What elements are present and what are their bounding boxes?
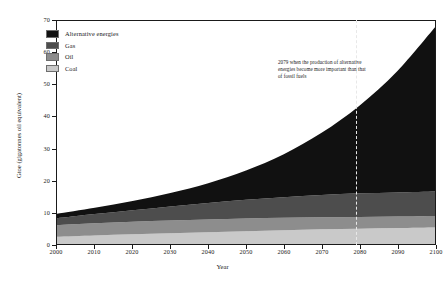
x-tick-mark <box>322 245 323 249</box>
x-tick-mark <box>94 245 95 249</box>
y-tick-label: 40 <box>20 112 50 119</box>
x-tick-label: 2060 <box>264 248 304 255</box>
x-axis-label: Year <box>0 263 445 270</box>
x-tick-mark <box>170 245 171 249</box>
y-tick-mark <box>52 213 56 214</box>
x-tick-mark <box>360 245 361 249</box>
x-tick-mark <box>56 245 57 249</box>
y-tick-label: 20 <box>20 177 50 184</box>
x-tick-label: 2020 <box>112 248 152 255</box>
legend-label-gas: Gas <box>65 42 75 49</box>
x-tick-mark <box>246 245 247 249</box>
legend-item-coal: Coal <box>46 63 119 75</box>
x-tick-mark <box>132 245 133 249</box>
x-tick-label: 2030 <box>150 248 190 255</box>
y-tick-mark <box>52 84 56 85</box>
x-tick-label: 2080 <box>340 248 380 255</box>
legend-item-alternative-energies: Alternative energies <box>46 28 119 40</box>
y-tick-label: 70 <box>20 16 50 23</box>
legend-label-coal: Coal <box>65 65 77 72</box>
x-tick-label: 2050 <box>226 248 266 255</box>
y-tick-mark <box>52 149 56 150</box>
legend-label-oil: Oil <box>65 53 73 60</box>
x-tick-mark <box>208 245 209 249</box>
y-tick-label: 30 <box>20 145 50 152</box>
x-tick-mark <box>436 245 437 249</box>
y-axis-label: Gtoe (gigatonnes oil equivalent) <box>15 66 22 206</box>
x-tick-mark <box>284 245 285 249</box>
legend-item-oil: Oil <box>46 51 119 63</box>
x-tick-label: 2010 <box>74 248 114 255</box>
y-tick-label: 10 <box>20 209 50 216</box>
x-tick-label: 2040 <box>188 248 228 255</box>
legend-swatch-coal <box>46 65 59 73</box>
x-tick-label: 2000 <box>36 248 76 255</box>
crossover-marker-line <box>356 20 357 245</box>
x-tick-label: 2100 <box>416 248 445 255</box>
legend-swatch-alternative-energies <box>46 30 59 38</box>
legend-label-alternative-energies: Alternative energies <box>65 30 119 37</box>
crossover-annotation: 2079 when the production of alternative … <box>278 59 370 80</box>
x-tick-label: 2070 <box>302 248 342 255</box>
chart-legend: Alternative energies Gas Oil Coal <box>46 28 119 74</box>
y-tick-label: 50 <box>20 80 50 87</box>
y-tick-mark <box>52 116 56 117</box>
y-tick-label: 0 <box>20 241 50 248</box>
y-tick-mark <box>52 181 56 182</box>
legend-swatch-gas <box>46 42 59 50</box>
x-tick-mark <box>398 245 399 249</box>
x-tick-label: 2090 <box>378 248 418 255</box>
legend-swatch-oil <box>46 53 59 61</box>
chart-figure: 2079 when the production of alternative … <box>0 0 445 283</box>
legend-item-gas: Gas <box>46 40 119 52</box>
y-tick-mark <box>52 20 56 21</box>
